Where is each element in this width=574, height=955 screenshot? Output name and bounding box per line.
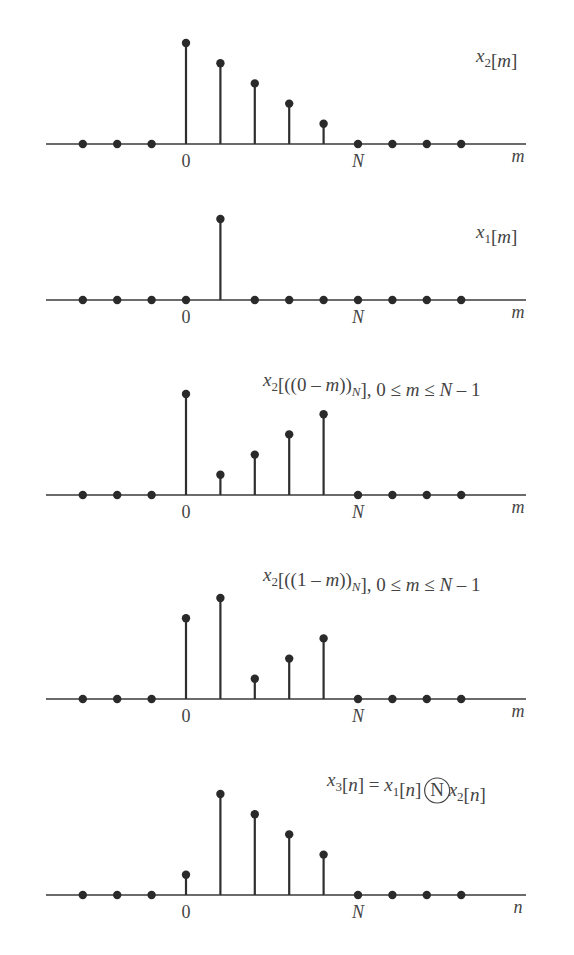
stem-marker [216,59,224,67]
stem-marker [319,410,327,418]
zero-sample-marker [182,296,190,304]
sequence-label: x2[m] [475,45,517,71]
stem-marker [251,810,259,818]
tick-label-n: N [351,151,365,171]
tick-label-0: 0 [182,151,191,171]
zero-sample-marker [388,891,396,899]
stem-marker [285,99,293,107]
axis-variable-label: m [512,146,525,166]
zero-sample-marker [423,296,431,304]
zero-sample-marker [113,140,121,148]
axis-variable-label: n [514,897,523,917]
zero-sample-marker [388,296,396,304]
zero-sample-marker [147,491,155,499]
zero-sample-marker [79,491,87,499]
stem-marker [285,654,293,662]
zero-sample-marker [388,695,396,703]
circular-convolution-figure: 0Nmx2[m]0Nmx1[m]0Nmx2[((0 – m))N], 0 ≤ m… [0,0,574,955]
axis-variable-label: m [512,497,525,517]
tick-label-0: 0 [182,307,191,327]
zero-sample-marker [147,296,155,304]
zero-sample-marker [457,695,465,703]
axis-variable-label: m [512,302,525,322]
zero-sample-marker [354,296,362,304]
tick-label-0: 0 [182,502,191,522]
zero-sample-marker [423,140,431,148]
stem-marker [285,830,293,838]
zero-sample-marker [423,695,431,703]
tick-label-n: N [351,502,365,522]
stem-plot-1: 0Nmx2[m] [46,39,526,171]
tick-label-n: N [351,706,365,726]
stem-marker [251,675,259,683]
stem-marker [216,594,224,602]
stem-marker [319,850,327,858]
zero-sample-marker [79,140,87,148]
zero-sample-marker [354,695,362,703]
tick-label-n: N [351,307,365,327]
zero-sample-marker [319,296,327,304]
stem-plot-3: 0Nmx2[((0 – m))N], 0 ≤ m ≤ N – 1 [46,369,526,522]
zero-sample-marker [113,695,121,703]
sequence-label: x2[((1 – m))N], 0 ≤ m ≤ N – 1 [262,564,481,595]
zero-sample-marker [147,140,155,148]
stem-marker [285,430,293,438]
zero-sample-marker [354,891,362,899]
sequence-label: x3[n] = x1[n] N x2[n] [326,769,486,805]
axis-variable-label: m [512,701,525,721]
zero-sample-marker [457,296,465,304]
stem-marker [216,790,224,798]
zero-sample-marker [457,891,465,899]
stem-plot-4: 0Nmx2[((1 – m))N], 0 ≤ m ≤ N – 1 [46,564,526,726]
stem-marker [182,871,190,879]
stem-plot-2: 0Nmx1[m] [46,215,526,327]
stem-marker [319,120,327,128]
zero-sample-marker [79,695,87,703]
zero-sample-marker [423,491,431,499]
zero-sample-marker [251,296,259,304]
zero-sample-marker [423,891,431,899]
stem-marker [182,39,190,47]
tick-label-n: N [351,902,365,922]
tick-label-0: 0 [182,902,191,922]
zero-sample-marker [79,891,87,899]
sequence-label: x2[((0 – m))N], 0 ≤ m ≤ N – 1 [262,369,481,400]
zero-sample-marker [388,140,396,148]
stem-marker [251,450,259,458]
stem-marker [182,614,190,622]
zero-sample-marker [79,296,87,304]
stem-marker [319,634,327,642]
stem-plot-5: 0Nnx3[n] = x1[n] N x2[n] [46,769,526,922]
zero-sample-marker [147,695,155,703]
zero-sample-marker [113,296,121,304]
zero-sample-marker [147,891,155,899]
zero-sample-marker [457,140,465,148]
zero-sample-marker [113,891,121,899]
zero-sample-marker [113,491,121,499]
zero-sample-marker [457,491,465,499]
stem-marker [216,215,224,223]
stem-marker [216,471,224,479]
zero-sample-marker [354,491,362,499]
zero-sample-marker [285,296,293,304]
circular-convolution-operator: N [430,779,444,800]
tick-label-0: 0 [182,706,191,726]
sequence-label: x1[m] [475,221,517,247]
stem-marker [182,390,190,398]
stem-marker [251,79,259,87]
zero-sample-marker [388,491,396,499]
zero-sample-marker [354,140,362,148]
